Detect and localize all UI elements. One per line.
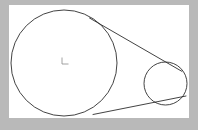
small-circle bbox=[144, 62, 187, 105]
figure-drawing bbox=[0, 0, 198, 130]
geometry-figure: Two circles with common external tangent… bbox=[0, 0, 198, 130]
center-mark-icon bbox=[62, 58, 68, 64]
lower-tangent-line bbox=[93, 96, 186, 115]
upper-tangent-line bbox=[90, 18, 183, 71]
large-circle bbox=[11, 10, 117, 116]
